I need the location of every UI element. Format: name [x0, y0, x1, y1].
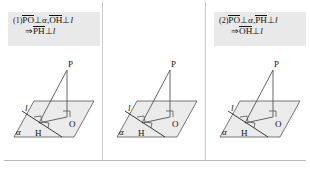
column-divider-2 — [205, 2, 206, 160]
point-label-H: H — [35, 128, 42, 138]
diagram-1: P O H l α — [4, 49, 100, 159]
column-1: (1)PO⊥α,OH⊥l ⇒PH⊥l P O H l α — [0, 0, 103, 163]
line-label-l: l — [25, 103, 28, 113]
column-2: (2)PO⊥α,PH⊥l ⇒OH⊥l P O H l α — [103, 0, 206, 163]
perp-symbol: ⊥ — [34, 15, 42, 25]
diagram-2-svg: P O H l α — [107, 49, 203, 159]
bottom-horizontal-rule — [4, 160, 306, 161]
point-label-H: H — [138, 128, 145, 138]
formula-box-1: (1)PO⊥α,OH⊥l ⇒PH⊥l — [8, 12, 100, 46]
plane-label-alpha: α — [119, 127, 124, 137]
column-3: (3)PH⊥l,OH⊥l, PO⊥OH ⇒PO⊥α P O H l α — [206, 0, 309, 163]
segment-OH: OH — [49, 15, 62, 25]
object-line-l: l — [70, 15, 73, 25]
perp-symbol: ⊥ — [45, 26, 53, 36]
plane-label-alpha: α — [16, 127, 21, 137]
worksheet-sheet: (1)PO⊥α,OH⊥l ⇒PH⊥l P O H l α ( — [0, 0, 310, 175]
formula-1-line-1: (1)PO⊥α,OH⊥l — [13, 15, 96, 26]
diagram-1-svg: P O H l α — [4, 49, 100, 159]
segment-PO: PO — [22, 15, 34, 25]
plane-label-alpha: α — [222, 127, 227, 137]
point-label-P: P — [68, 59, 73, 69]
diagram-2: P O H l α — [107, 49, 203, 159]
point-label-O: O — [172, 119, 179, 129]
diagram-3-svg: P O H l α — [210, 49, 306, 159]
line-label-l: l — [128, 103, 131, 113]
object-line-l: l — [53, 26, 56, 36]
formula-1-line-2: ⇒PH⊥l — [13, 26, 96, 37]
column-divider-1 — [102, 2, 103, 160]
implies-arrow-icon: ⇒ — [25, 26, 33, 36]
point-label-O: O — [275, 119, 282, 129]
point-label-P: P — [274, 59, 279, 69]
diagram-3: P O H l α — [210, 49, 306, 159]
point-label-O: O — [69, 119, 76, 129]
point-label-H: H — [241, 128, 248, 138]
item-number-1: (1) — [13, 16, 22, 25]
point-label-P: P — [171, 59, 176, 69]
line-label-l: l — [231, 103, 234, 113]
segment-PH: PH — [33, 26, 45, 36]
